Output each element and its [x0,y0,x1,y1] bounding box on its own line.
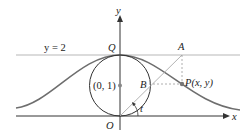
label-A: A [177,41,185,52]
center-point [118,84,122,88]
label-Q: Q [108,42,116,53]
label-P: P(x, y) [184,77,213,89]
label-O: O [106,120,114,131]
y-axis-arrow-icon [117,15,123,22]
label-center: (0, 1) [93,80,116,92]
x-axis-arrow-icon [223,113,230,119]
x-axis-label: x [231,111,237,122]
y-axis-label: y [115,5,121,16]
label-B: B [140,79,147,90]
agnesi-diagram: y x y = 2 Q A O B P(x, y) (0, 1) t [0,0,245,137]
line-label: y = 2 [44,42,66,53]
point-P [180,82,184,86]
